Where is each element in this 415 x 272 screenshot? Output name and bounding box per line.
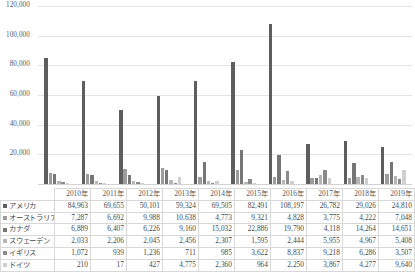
table-cell: 2,206 xyxy=(91,236,127,248)
series-name-label: カナダ xyxy=(9,224,29,233)
table-cell: 14,264 xyxy=(343,224,379,236)
table-cell: 4,118 xyxy=(307,224,343,236)
table-row: イギリス1,0729391,2367119853,6228,8379,2186,… xyxy=(1,247,415,259)
bar-スウェーデン-2016年 xyxy=(282,180,285,184)
table-cell: 29,026 xyxy=(343,200,379,212)
bar-アメリカ-2019年 xyxy=(381,147,384,184)
bar-カナダ-2013年 xyxy=(165,170,168,184)
table-cell: 1,072 xyxy=(55,247,91,259)
bar-オーストラリア-2019年 xyxy=(385,174,388,184)
table-cell: 26,782 xyxy=(307,200,343,212)
bar-カナダ-2012年 xyxy=(128,175,131,184)
bar-アメリカ-2014年 xyxy=(194,81,197,184)
bar-オーストラリア-2013年 xyxy=(161,168,164,184)
table-cell: 9,640 xyxy=(379,259,415,271)
legend-entry-イギリス: イギリス xyxy=(1,247,55,259)
bar-スウェーデン-2019年 xyxy=(394,176,397,184)
bar-ドイツ-2015年 xyxy=(253,183,256,184)
bar-スウェーデン-2013年 xyxy=(169,180,172,184)
bar-オーストラリア-2016年 xyxy=(273,177,276,184)
bar-オーストラリア-2011年 xyxy=(86,174,89,184)
table-corner-cell xyxy=(1,189,55,201)
bar-アメリカ-2017年 xyxy=(306,144,309,184)
table-cell: 3,622 xyxy=(235,247,271,259)
bar-イギリス-2015年 xyxy=(248,179,251,184)
bar-オーストラリア-2017年 xyxy=(310,178,313,184)
table-cell: 2,360 xyxy=(199,259,235,271)
bar-オーストラリア-2018年 xyxy=(348,178,351,184)
bar-group-2011年 xyxy=(75,6,112,184)
table-cell: 10,638 xyxy=(163,212,199,224)
bar-ドイツ-2018年 xyxy=(365,178,368,184)
table-row: カナダ6,8896,4076,2269,16015,03222,88619,79… xyxy=(1,224,415,236)
table-cell: 2,033 xyxy=(55,236,91,248)
table-column-header: 2013年 xyxy=(163,189,199,201)
bar-イギリス-2018年 xyxy=(361,175,364,184)
series-name-label: ドイツ xyxy=(9,260,29,269)
gridline-0 xyxy=(38,184,412,185)
table-cell: 17 xyxy=(91,259,127,271)
bar-イギリス-2013年 xyxy=(174,183,177,184)
table-cell: 4,773 xyxy=(199,212,235,224)
table-cell: 24,810 xyxy=(379,200,415,212)
bar-group-2010年 xyxy=(38,6,75,184)
table-row: オーストラリア7,2876,6929,98810,6384,7739,3214,… xyxy=(1,212,415,224)
bar-ドイツ-2019年 xyxy=(402,170,405,184)
bar-スウェーデン-2014年 xyxy=(207,181,210,184)
bar-イギリス-2019年 xyxy=(398,179,401,184)
bar-group-2015年 xyxy=(225,6,262,184)
legend-entry-ドイツ: ドイツ xyxy=(1,259,55,271)
table-cell: 14,651 xyxy=(379,224,415,236)
table-cell: 19,790 xyxy=(271,224,307,236)
series-name-label: オーストラリア xyxy=(9,213,55,222)
bar-カナダ-2011年 xyxy=(90,175,93,185)
table-cell: 6,692 xyxy=(91,212,127,224)
bar-イギリス-2010年 xyxy=(61,182,64,184)
table-column-header: 2019年 xyxy=(379,189,415,201)
bar-カナダ-2017年 xyxy=(315,178,318,184)
table-cell: 5,408 xyxy=(379,236,415,248)
bar-ドイツ-2016年 xyxy=(290,181,293,184)
table-cell: 84,963 xyxy=(55,200,91,212)
bar-ドイツ-2017年 xyxy=(328,178,331,184)
table-cell: 8,837 xyxy=(271,247,307,259)
bar-ドイツ-2014年 xyxy=(215,181,218,185)
table-cell: 5,955 xyxy=(307,236,343,248)
bar-スウェーデン-2018年 xyxy=(356,177,359,184)
table-cell: 4,775 xyxy=(163,259,199,271)
table-cell: 3,867 xyxy=(307,259,343,271)
table-cell: 1,595 xyxy=(235,236,271,248)
table-cell: 9,321 xyxy=(235,212,271,224)
table-cell: 711 xyxy=(163,247,199,259)
bar-ドイツ-2010年 xyxy=(66,183,69,184)
data-table: 2010年2011年2012年2013年2014年2015年2016年2017年… xyxy=(0,188,415,272)
bar-ドイツ-2012年 xyxy=(140,183,143,184)
table-cell: 2,456 xyxy=(163,236,199,248)
table-column-header: 2011年 xyxy=(91,189,127,201)
legend-entry-カナダ: カナダ xyxy=(1,224,55,236)
table-row: アメリカ84,96369,65550,10159,32469,50582,491… xyxy=(1,200,415,212)
bar-スウェーデン-2017年 xyxy=(319,175,322,184)
bar-オーストラリア-2015年 xyxy=(236,170,239,184)
table-cell: 50,101 xyxy=(127,200,163,212)
table-cell: 3,507 xyxy=(379,247,415,259)
bar-ドイツ-2013年 xyxy=(178,177,181,184)
table-cell: 939 xyxy=(91,247,127,259)
bar-group-2012年 xyxy=(113,6,150,184)
table-cell: 6,286 xyxy=(343,247,379,259)
series-name-label: イギリス xyxy=(9,248,36,257)
bar-group-2013年 xyxy=(150,6,187,184)
bar-ドイツ-2011年 xyxy=(103,183,106,184)
table-cell: 9,218 xyxy=(307,247,343,259)
legend-swatch-icon xyxy=(3,239,7,243)
table-cell: 1,236 xyxy=(127,247,163,259)
series-name-label: アメリカ xyxy=(9,201,36,210)
table-column-header: 2018年 xyxy=(343,189,379,201)
series-name-label: スウェーデン xyxy=(9,236,50,245)
table-cell: 15,032 xyxy=(199,224,235,236)
bar-イギリス-2017年 xyxy=(323,170,326,184)
table-cell: 69,505 xyxy=(199,200,235,212)
table-cell: 964 xyxy=(235,259,271,271)
bar-アメリカ-2010年 xyxy=(44,58,47,184)
